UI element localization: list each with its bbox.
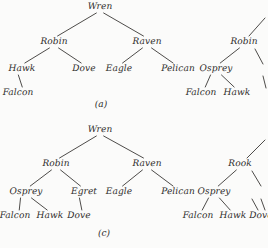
tree-node-rook: Rook [228,159,251,169]
tree-node-dove: Dove [72,64,95,74]
tree-node-falcon: Falcon [3,88,34,98]
tree-node-robin: Robin [42,159,69,169]
tree-node-dove: Dove [67,211,90,221]
tree-node-hawk: Hawk [37,211,64,221]
tree-node-eagle: Eagle [106,64,132,74]
tree-node-osprey: Osprey [199,64,232,74]
tree-node-robin: Robin [230,37,257,47]
tree-node-raven: Raven [132,159,161,169]
figure-caption-a: (a) [95,99,107,109]
tree-node-falcon: Falcon [0,211,30,221]
tree-node-osprey: Osprey [9,187,42,197]
tree-node-falcon: Falcon [186,88,217,98]
tree-node-osprey: Osprey [197,187,230,197]
tree-node-wren: Wren [88,2,113,12]
tree-node-dove: Dove [249,211,268,221]
tree-label-layer: WrenRobinRavenHawkDoveEaglePelicanFalcon… [0,0,268,248]
tree-node-eagle: Eagle [106,187,132,197]
tree-node-falcon: Falcon [183,211,214,221]
tree-node-pelican: Pelican [161,187,195,197]
tree-node-egret: Egret [71,187,97,197]
tree-node-hawk: Hawk [9,64,36,74]
tree-node-pelican: Pelican [161,64,195,74]
figure-caption-c: (c) [98,228,110,238]
figure-canvas: WrenRobinRavenHawkDoveEaglePelicanFalcon… [0,0,268,248]
tree-node-hawk: Hawk [224,88,251,98]
tree-node-raven: Raven [132,37,161,47]
tree-node-hawk: Hawk [220,211,247,221]
tree-node-robin: Robin [40,37,67,47]
tree-node-wren: Wren [88,125,113,135]
